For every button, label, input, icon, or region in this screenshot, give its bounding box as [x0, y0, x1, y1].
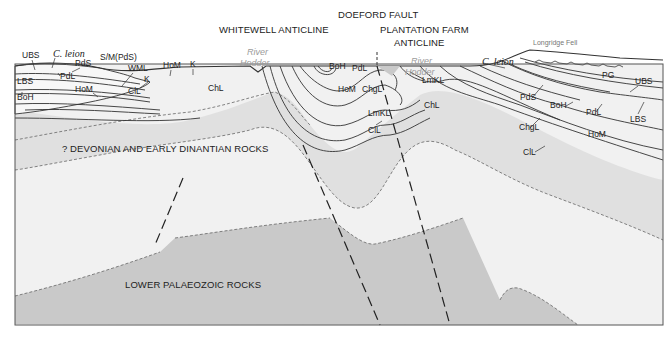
- label-boh-west: BoH: [17, 92, 34, 102]
- label-boh-central: BoH: [329, 61, 346, 71]
- river-hodder-label-west-1: River: [247, 47, 269, 57]
- label-k-mid: K: [190, 59, 196, 69]
- lower-palaeozoic-label: LOWER PALAEOZOIC ROCKS: [125, 279, 261, 290]
- label-pdl-east: PdL: [586, 107, 601, 117]
- label-hom-west: HoM: [75, 84, 93, 94]
- label-wml: WML: [128, 63, 148, 73]
- label-cil-central: ClL: [368, 125, 381, 135]
- label-ubs-west: UBS: [22, 50, 40, 60]
- label-chgl-central: ChgL: [362, 84, 383, 94]
- label-pg: PG: [602, 70, 614, 80]
- c-leion-label-east: C. leion: [482, 56, 514, 67]
- river-hodder-label-west-2: Hodder: [240, 58, 271, 68]
- label-cil-west: ClL: [128, 86, 141, 96]
- label-chl-east: ChL: [424, 100, 440, 110]
- label-lbs-west: LBS: [17, 76, 33, 86]
- plantation-farm-label-2: ANTICLINE: [394, 37, 445, 48]
- label-lmkl-east: LmKL: [422, 75, 444, 85]
- label-pdl-central: PdL: [352, 63, 367, 73]
- label-ubs-east: UBS: [635, 76, 653, 86]
- label-lbs-east: LBS: [630, 114, 646, 124]
- label-pds-east: PdS: [520, 92, 536, 102]
- cross-section-diagram: DOEFORD FAULT WHITEWELL ANTICLINE PLANTA…: [0, 0, 670, 345]
- label-pdl-west: PdL: [60, 71, 75, 81]
- whitewell-anticline-label: WHITEWELL ANTICLINE: [219, 24, 329, 35]
- longridge-fell-label: Longridge Fell: [533, 39, 578, 47]
- doeford-fault-label: DOEFORD FAULT: [338, 9, 418, 20]
- label-lmkl-central: LmKL: [368, 108, 390, 118]
- label-boh-east: BoH: [550, 100, 567, 110]
- label-pds-west: PdS: [75, 58, 91, 68]
- devonian-rocks-label: ? DEVONIAN AND EARLY DINANTIAN ROCKS: [62, 143, 269, 154]
- label-hom-mid: HoM: [163, 60, 181, 70]
- label-sm-pds: S/M(PdS): [100, 52, 137, 62]
- label-hom-east: HoM: [588, 129, 606, 139]
- label-hom-central: HoM: [338, 84, 356, 94]
- river-hodder-label-east-1: River: [411, 56, 433, 66]
- label-chl-west: ChL: [208, 83, 224, 93]
- label-cil-east: ClL: [523, 147, 536, 157]
- label-chgl-east: ChgL: [519, 122, 540, 132]
- plantation-farm-label-1: PLANTATION FARM: [380, 24, 469, 35]
